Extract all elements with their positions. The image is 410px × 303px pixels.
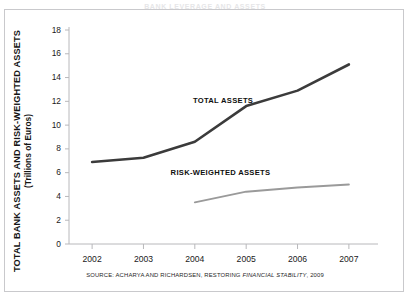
chart-figure: BANK LEVERAGE AND ASSETS TOTAL BANK ASSE… — [0, 0, 410, 303]
x-tick-label-2002: 2002 — [70, 255, 114, 264]
x-tick-label-2007: 2007 — [327, 255, 371, 264]
y-tick-label-10: 10 — [39, 121, 61, 129]
y-tick-label-6: 6 — [39, 168, 61, 176]
series-label-total-assets: TOTAL ASSETS — [193, 96, 253, 105]
x-tick-label-2004: 2004 — [173, 255, 217, 264]
x-tick-label-2003: 2003 — [121, 255, 165, 264]
x-tick-label-2005: 2005 — [224, 255, 268, 264]
y-tick-label-18: 18 — [39, 26, 61, 34]
series-line-total-assets — [92, 64, 349, 161]
source-prefix: SOURCE: ACHARYA AND RICHARDSEN, — [86, 272, 202, 278]
series-label-risk-weighted-assets: RISK-WEIGHTED ASSETS — [171, 168, 271, 177]
y-tick-label-14: 14 — [39, 73, 61, 81]
axis-spine — [69, 27, 378, 244]
y-tick-label-16: 16 — [39, 49, 61, 57]
source-year: , 2009 — [307, 272, 324, 278]
y-tick-label-0: 0 — [39, 240, 61, 248]
y-tick-label-4: 4 — [39, 192, 61, 200]
source-title-roman: RESTORING — [204, 272, 240, 278]
y-tick-label-2: 2 — [39, 216, 61, 224]
x-tick-label-2006: 2006 — [276, 255, 320, 264]
source-title-italic: FINANCIAL STABILITY — [242, 272, 306, 278]
y-tick-label-12: 12 — [39, 97, 61, 105]
source-note: SOURCE: ACHARYA AND RICHARDSEN, RESTORIN… — [0, 272, 410, 278]
series-line-risk-weighted-assets — [195, 185, 349, 203]
y-tick-label-8: 8 — [39, 144, 61, 152]
